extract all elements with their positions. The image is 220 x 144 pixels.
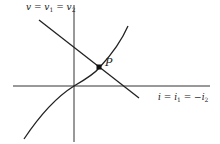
characteristic-curve (24, 26, 128, 139)
y-axis-label: v = v1 = v2 (26, 2, 76, 13)
diagram-canvas: P v = v1 = v2 i = i1 = −i2 (0, 0, 220, 144)
point-label: P (104, 56, 113, 69)
intersection-point (97, 65, 102, 70)
x-axis-label: i = i1 = −i2 (158, 92, 209, 103)
